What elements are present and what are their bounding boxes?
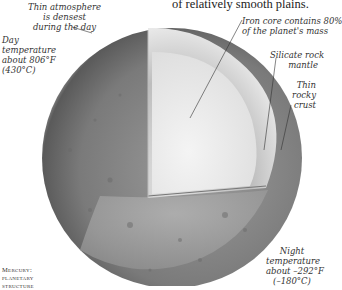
label-line: Night [266, 246, 318, 256]
mantle-label: Silicate rock mantle [270, 50, 318, 70]
label-line: rocky [288, 90, 316, 100]
label-line: (–180°C) [266, 276, 318, 286]
label-line: about –292°F [266, 266, 318, 276]
label-line: about 806°F [2, 55, 56, 65]
night-temperature-label: Night temperature about –292°F (–180°C) [266, 246, 318, 286]
label-line: of the planet's mass [242, 26, 318, 36]
caption-line: Mercury: [2, 266, 34, 274]
label-line: crust [288, 100, 316, 110]
label-line: temperature [266, 256, 318, 266]
crust-label: Thin rocky crust [288, 80, 316, 110]
label-line: is densest [28, 12, 101, 22]
atmosphere-label: Thin atmosphere is densest during the da… [28, 2, 101, 32]
day-temperature-label: Day temperature about 806°F (430°C) [2, 35, 56, 75]
label-line: (430°C) [2, 65, 56, 75]
top-caption: of relatively smooth plains. [172, 0, 309, 12]
label-line: Thin [288, 80, 316, 90]
label-line: Thin atmosphere [28, 2, 101, 12]
label-line: during the day [28, 22, 101, 32]
label-line: Iron core contains 80% [242, 16, 318, 26]
figure-caption: Mercury: planetary structure [2, 266, 34, 290]
label-line: mantle [270, 60, 318, 70]
core-label: Iron core contains 80% of the planet's m… [242, 16, 318, 36]
caption-line: structure [2, 282, 34, 290]
label-line: temperature [2, 45, 56, 55]
label-line: Silicate rock [270, 50, 318, 60]
label-line: Day [2, 35, 56, 45]
caption-line: planetary [2, 274, 34, 282]
